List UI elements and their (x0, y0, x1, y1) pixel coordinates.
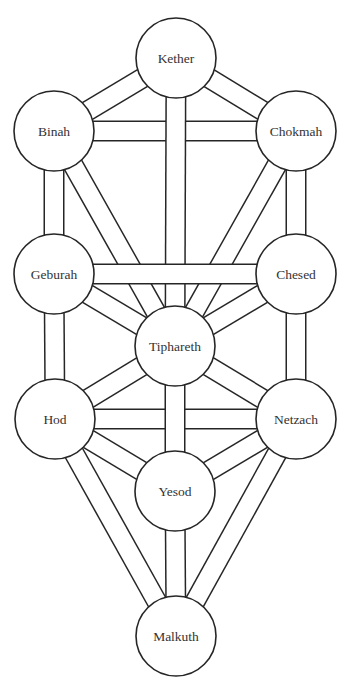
sephirah-kether: Kether (136, 18, 216, 98)
sephirah-malkuth: Malkuth (136, 596, 216, 676)
chesed-label: Chesed (276, 267, 316, 282)
sephirah-hod: Hod (15, 379, 95, 459)
path-kether-tiphareth (175, 58, 176, 346)
path-band-fill (175, 58, 176, 346)
kether-label: Kether (158, 51, 195, 66)
sephirah-tiphareth: Tiphareth (135, 306, 215, 386)
sephirah-geburah: Geburah (14, 234, 94, 314)
chokmah-label: Chokmah (270, 124, 323, 139)
geburah-label: Geburah (31, 267, 78, 282)
tiphareth-label: Tiphareth (149, 339, 201, 354)
sephirah-chokmah: Chokmah (256, 91, 336, 171)
sephirah-netzach: Netzach (256, 379, 336, 459)
tree-of-life-diagram: Kether Binah Chokmah Geburah Chesed Tiph… (0, 0, 352, 690)
malkuth-label: Malkuth (153, 629, 199, 644)
sephirah-binah: Binah (14, 91, 94, 171)
hod-label: Hod (43, 412, 66, 427)
sephirah-yesod: Yesod (135, 451, 215, 531)
netzach-label: Netzach (274, 412, 318, 427)
yesod-label: Yesod (158, 484, 191, 499)
sephirah-chesed: Chesed (256, 234, 336, 314)
binah-label: Binah (38, 124, 70, 139)
